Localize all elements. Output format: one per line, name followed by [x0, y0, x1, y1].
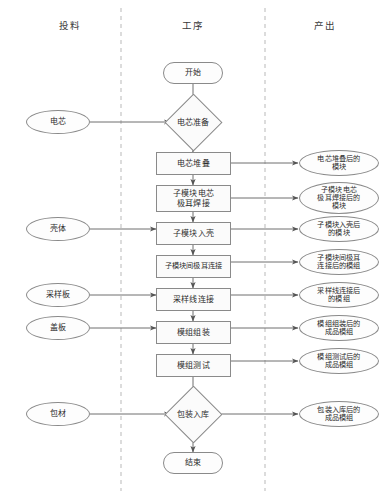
node-output-shelled-module-line2: 的模块 — [324, 229, 354, 237]
node-end[interactable]: 结束 — [163, 452, 223, 474]
node-output-assembled-module[interactable]: 模组组装后的 成品模组 — [299, 315, 379, 341]
node-output-shelled-module[interactable]: 子模块入壳后 的模块 — [299, 216, 379, 242]
node-end-label: 结束 — [185, 458, 201, 467]
node-input-shell-label: 壳体 — [46, 224, 70, 233]
node-process-cell-stacking[interactable]: 电芯堆叠 — [156, 152, 231, 175]
node-input-cell[interactable]: 电芯 — [26, 110, 90, 134]
node-process-submodule-into-shell-label: 子模块入壳 — [171, 229, 216, 238]
node-process-tab-welding[interactable]: 子模块电芯 极耳焊接 — [156, 185, 231, 212]
node-input-cell-label: 电芯 — [46, 117, 70, 126]
node-process-tab-welding-label-line2: 极耳焊接 — [175, 199, 212, 208]
node-process-module-assembly-label: 模组组装 — [175, 328, 212, 337]
column-header-output: 产出 — [285, 18, 365, 32]
column-header-process: 工序 — [153, 18, 233, 32]
node-process-tab-welding-label-line1: 子模块电芯 — [171, 189, 216, 198]
node-output-sampling-connected-module-line2: 的模组 — [324, 295, 354, 303]
node-output-sampling-connected-module[interactable]: 采样线连接后 的模组 — [299, 282, 379, 308]
node-decision-packaging[interactable]: 包装入库 — [156, 394, 230, 435]
node-output-welded-module-line1: 子模块电芯 — [317, 186, 361, 194]
node-decision-cell-prep-label: 电芯准备 — [177, 118, 210, 127]
node-input-packaging-material-label: 包材 — [46, 409, 70, 418]
node-output-stacked-module[interactable]: 电芯堆叠后的 模块 — [299, 150, 379, 176]
node-input-shell[interactable]: 壳体 — [26, 217, 90, 241]
node-input-sampling-board-label: 采样板 — [42, 290, 75, 299]
node-process-cell-stacking-label: 电芯堆叠 — [175, 159, 212, 168]
node-process-inter-submodule-tab[interactable]: 子模块间极耳连接 — [156, 255, 231, 278]
node-output-tested-module-line2: 成品模组 — [321, 361, 358, 369]
node-process-module-assembly[interactable]: 模组组装 — [156, 321, 231, 344]
node-output-welded-module[interactable]: 子模块电芯 极耳焊接后的 模块 — [299, 182, 379, 214]
node-input-packaging-material[interactable]: 包材 — [26, 402, 90, 426]
node-decision-packaging-label: 包装入库 — [177, 410, 210, 419]
node-output-tab-connected-module-line2: 连接后的模组 — [313, 262, 364, 270]
node-process-submodule-into-shell[interactable]: 子模块入壳 — [156, 222, 231, 245]
node-output-tested-module[interactable]: 模组测试后的 成品模组 — [299, 348, 379, 374]
node-output-packaged-module-line2: 成品模组 — [321, 414, 358, 422]
node-decision-cell-prep[interactable]: 电芯准备 — [156, 102, 230, 143]
node-output-tab-connected-module[interactable]: 子模块间极耳 连接后的模组 — [299, 249, 379, 275]
flowchart-canvas: 投料 工序 产出 开始 结束 电芯准备 包装入库 电芯堆叠 子模块电芯 极耳焊接… — [0, 0, 386, 499]
node-output-welded-module-line2: 极耳焊接后的 — [313, 194, 364, 202]
node-input-cover-plate[interactable]: 盖板 — [26, 316, 90, 340]
column-header-input: 投料 — [30, 18, 110, 32]
node-output-packaged-module[interactable]: 包装入库后的 成品模组 — [299, 401, 379, 427]
node-output-stacked-module-line2: 模块 — [328, 163, 350, 171]
node-process-sampling-wire-label: 采样线连接 — [171, 295, 216, 304]
node-process-module-testing[interactable]: 模组测试 — [156, 354, 231, 377]
node-process-inter-submodule-tab-label: 子模块间极耳连接 — [163, 262, 225, 270]
node-input-sampling-board[interactable]: 采样板 — [26, 283, 90, 307]
node-start[interactable]: 开始 — [163, 62, 223, 84]
node-start-label: 开始 — [185, 68, 201, 77]
node-output-welded-module-line3: 模块 — [328, 202, 350, 210]
node-process-sampling-wire[interactable]: 采样线连接 — [156, 288, 231, 311]
node-input-cover-plate-label: 盖板 — [46, 323, 70, 332]
node-process-module-testing-label: 模组测试 — [175, 361, 212, 370]
node-output-assembled-module-line2: 成品模组 — [321, 328, 358, 336]
